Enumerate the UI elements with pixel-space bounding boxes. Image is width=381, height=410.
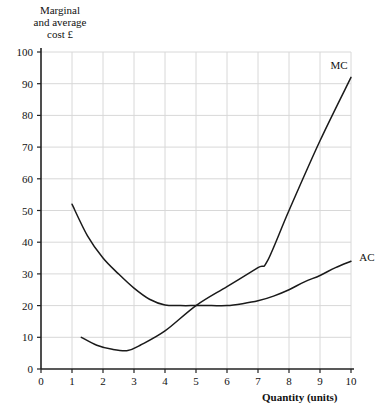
cost-curves-chart: Marginal and average cost £ Quantity (un… xyxy=(0,0,381,410)
series-lines xyxy=(72,77,351,350)
gridlines xyxy=(41,52,351,369)
axis-ticks xyxy=(37,52,351,373)
axes xyxy=(41,48,354,369)
plot-area xyxy=(0,0,381,410)
